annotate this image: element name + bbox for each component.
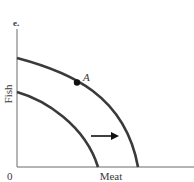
ppf-chart: e. A 0 Meat Fish [0,0,194,182]
x-axis-label: Meat [100,170,123,182]
origin-label: 0 [7,170,13,182]
chart-svg: e. A 0 Meat Fish [0,0,194,182]
ppf-outer-curve [17,58,138,167]
panel-label: e. [13,18,19,28]
point-a-marker [74,79,80,85]
point-a-label: A [82,71,90,83]
arrow-right-icon [111,132,119,140]
ppf-inner-curve [17,92,98,167]
y-axis-label: Fish [2,84,14,103]
